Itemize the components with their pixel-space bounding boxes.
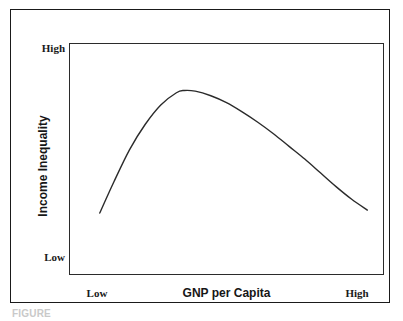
plot-area-frame <box>69 43 384 275</box>
y-axis-tick-high: High <box>33 43 65 54</box>
figure-caption: FIGURE <box>12 308 51 319</box>
y-axis-tick-low: Low <box>33 252 65 263</box>
y-axis-title: Income Inequality <box>37 96 49 236</box>
figure-outer-frame: High Low Income Inequality Low GNP per C… <box>10 9 390 303</box>
income-inequality-curve <box>100 90 368 213</box>
x-axis-tick-high: High <box>329 288 385 299</box>
kuznets-curve-plot <box>70 44 383 274</box>
